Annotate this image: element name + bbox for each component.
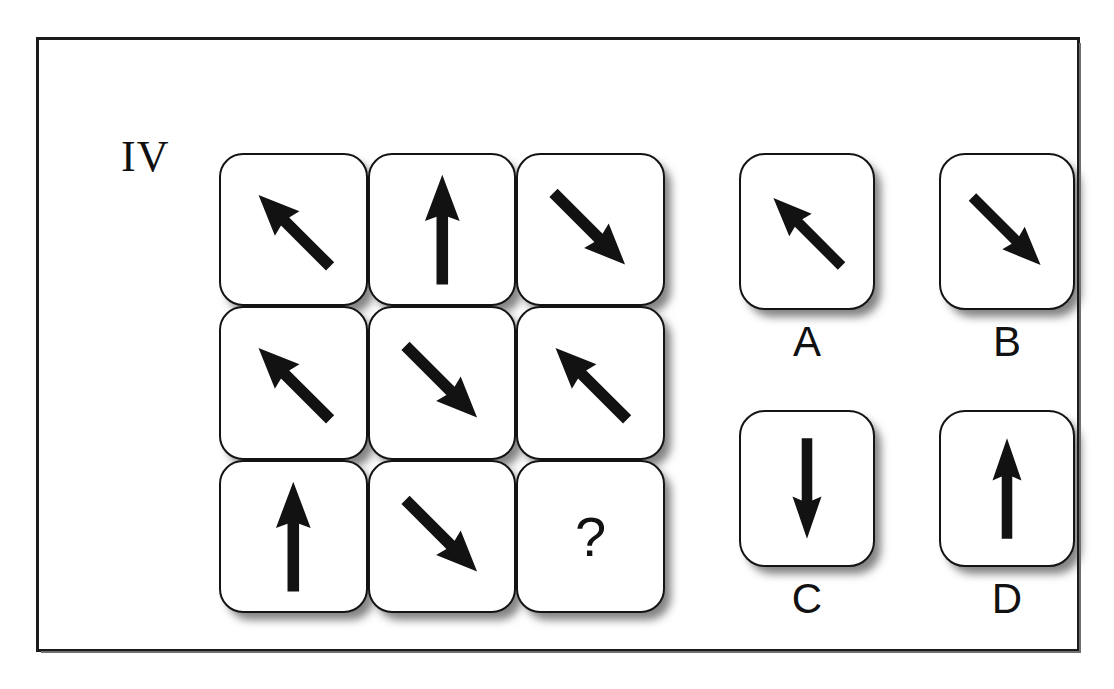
matrix-cell-r2c2[interactable]	[368, 306, 517, 459]
matrix-cell-r2c3[interactable]	[516, 306, 665, 459]
item-numeral: IV	[121, 135, 169, 179]
answer-option-b[interactable]: B	[939, 153, 1075, 310]
matrix-grid: ?	[219, 153, 665, 613]
answer-option-d[interactable]: D	[939, 410, 1075, 567]
answer-option-a[interactable]: A	[739, 153, 875, 310]
arrow-down-left-icon	[941, 155, 1073, 308]
arrow-up-left-icon	[741, 155, 873, 308]
arrow-up-left-icon	[221, 155, 366, 304]
item-frame: IV	[36, 37, 1080, 652]
arrow-up-icon	[370, 155, 515, 304]
answer-option-c[interactable]: C	[739, 410, 875, 567]
matrix-cell-r3c1[interactable]	[219, 460, 368, 613]
matrix-cell-r1c1[interactable]	[219, 153, 368, 306]
arrow-up-left-icon	[518, 308, 663, 457]
answer-option-b-card[interactable]	[939, 153, 1075, 310]
question-mark-icon: ?	[518, 462, 663, 611]
matrix-cell-r3c3-missing[interactable]: ?	[516, 460, 665, 613]
arrow-down-icon	[741, 412, 873, 565]
arrow-down-left-icon	[370, 462, 515, 611]
answer-option-a-card[interactable]	[739, 153, 875, 310]
arrow-up-icon	[221, 462, 366, 611]
arrow-up-left-icon	[221, 308, 366, 457]
answer-option-c-card[interactable]	[739, 410, 875, 567]
matrix-cell-r1c3[interactable]	[516, 153, 665, 306]
answer-option-c-label: C	[739, 578, 875, 620]
matrix-cell-r2c1[interactable]	[219, 306, 368, 459]
answer-option-d-label: D	[939, 578, 1075, 620]
matrix-reasoning-page: IV	[0, 0, 1114, 689]
arrow-up-icon	[941, 412, 1073, 565]
arrow-down-left-icon	[370, 308, 515, 457]
answer-options: A B	[739, 153, 1089, 633]
arrow-down-left-icon	[518, 155, 663, 304]
matrix-cell-r1c2[interactable]	[368, 153, 517, 306]
answer-option-a-label: A	[739, 321, 875, 363]
matrix-cell-r3c2[interactable]	[368, 460, 517, 613]
answer-option-d-card[interactable]	[939, 410, 1075, 567]
answer-option-b-label: B	[939, 321, 1075, 363]
